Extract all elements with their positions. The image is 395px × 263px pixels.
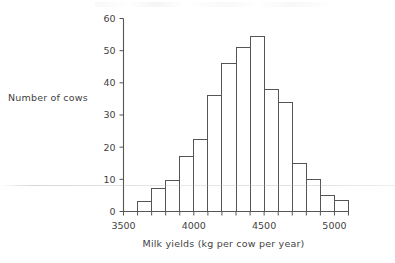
- histogram-bar: [320, 195, 334, 211]
- y-tick-label: 0: [109, 206, 115, 217]
- x-axis-label: Milk yields (kg per cow per year): [143, 238, 305, 249]
- x-axis-label-wrap: Milk yields (kg per cow per year): [0, 238, 395, 249]
- histogram-bar: [138, 202, 152, 212]
- histogram-bar: [306, 179, 320, 211]
- y-tick-label: 50: [103, 45, 115, 56]
- histogram-bar: [208, 96, 222, 212]
- y-axis-label: Number of cows: [8, 92, 88, 103]
- x-tick-label: 4500: [252, 220, 276, 231]
- histogram-bar: [194, 139, 208, 211]
- histogram-bar: [236, 47, 250, 211]
- y-tick-label: 30: [103, 109, 115, 120]
- x-tick-label: 4000: [182, 220, 206, 231]
- histogram-bar: [180, 157, 194, 212]
- histogram-bar: [152, 189, 166, 212]
- x-tick-labels: 3500400045005000: [111, 212, 348, 231]
- x-tick-label: 5000: [322, 220, 346, 231]
- y-tick-label: 40: [103, 77, 115, 88]
- histogram-bar: [292, 163, 306, 211]
- histogram-bar: [334, 200, 348, 211]
- y-tick-label: 20: [103, 142, 115, 153]
- x-tick-label: 3500: [111, 220, 135, 231]
- histogram-bar: [222, 64, 236, 212]
- bars-group: [138, 36, 349, 211]
- histogram-plot: 0102030405060 3500400045005000: [0, 0, 395, 263]
- histogram-bar: [250, 36, 264, 211]
- histogram-bar: [166, 181, 180, 212]
- y-tick-label: 10: [103, 174, 115, 185]
- histogram-bar: [278, 102, 292, 211]
- histogram-figure: 0102030405060 3500400045005000 Number of…: [0, 0, 395, 263]
- y-tick-label: 60: [103, 13, 115, 24]
- y-tick-labels: 0102030405060: [103, 13, 123, 217]
- histogram-bar: [264, 89, 278, 211]
